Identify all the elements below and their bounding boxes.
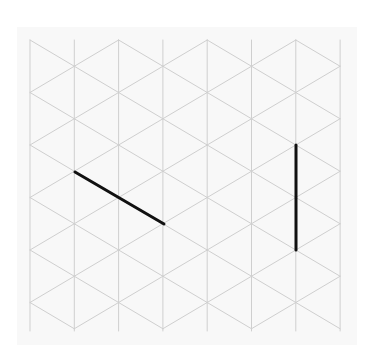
- grid-diagonal-line: [119, 119, 163, 145]
- grid-diagonal-line: [296, 171, 340, 197]
- grid-diagonal-line: [252, 276, 296, 302]
- grid-diagonal-line: [296, 198, 340, 224]
- grid-diagonal-line: [163, 119, 207, 145]
- grid-diagonal-line: [207, 198, 251, 224]
- grid-diagonal-line: [30, 93, 74, 119]
- grid-diagonal-line: [119, 171, 163, 197]
- grid-diagonal-line: [119, 224, 163, 250]
- grid-diagonal-line: [30, 198, 74, 224]
- grid-diagonal-line: [74, 145, 118, 171]
- grid-diagonal-line: [252, 303, 296, 329]
- grid-diagonal-line: [207, 40, 251, 66]
- grid-diagonal-line: [296, 40, 340, 66]
- grid-diagonal-line: [30, 145, 74, 171]
- grid-diagonal-line: [163, 224, 207, 250]
- grid-diagonal-line: [296, 276, 340, 302]
- grid-diagonal-line: [119, 303, 163, 329]
- grid-diagonal-line: [74, 66, 118, 92]
- grid-diagonal-line: [207, 171, 251, 197]
- grid-diagonal-line: [163, 40, 207, 66]
- grid-diagonal-line: [30, 276, 74, 302]
- grid-diagonal-line: [74, 303, 118, 329]
- grid-diagonal-line: [163, 303, 207, 329]
- grid-diagonal-line: [252, 40, 296, 66]
- grid-diagonal-line: [119, 40, 163, 66]
- grid-diagonal-line: [119, 66, 163, 92]
- grid-diagonal-line: [207, 276, 251, 302]
- grid-diagonal-line: [207, 66, 251, 92]
- grid-diagonal-line: [30, 66, 74, 92]
- grid-diagonal-line: [252, 93, 296, 119]
- grid-diagonal-line: [119, 250, 163, 276]
- drawn-segments: [75, 145, 296, 250]
- grid-diagonal-line: [296, 66, 340, 92]
- grid-diagonal-line: [74, 40, 118, 66]
- grid-diagonal-line: [252, 171, 296, 197]
- grid-diagonal-line: [252, 145, 296, 171]
- grid-diagonal-line: [74, 198, 118, 224]
- grid-diagonal-line: [207, 145, 251, 171]
- grid-diagonal-line: [30, 171, 74, 197]
- grid-diagonal-line: [119, 145, 163, 171]
- diagonal-segment: [75, 172, 164, 224]
- grid-diagonal-line: [207, 303, 251, 329]
- grid-diagonal-line: [119, 93, 163, 119]
- grid-diagonal-line: [296, 145, 340, 171]
- grid-diagonal-line: [296, 119, 340, 145]
- grid-diagonal-line: [30, 224, 74, 250]
- grid-diagonal-line: [207, 250, 251, 276]
- grid-diagonal-line: [252, 250, 296, 276]
- grid-diagonal-line: [30, 119, 74, 145]
- grid-diagonal-line: [74, 93, 118, 119]
- grid-diagonal-line: [207, 93, 251, 119]
- grid-diagonal-line: [163, 171, 207, 197]
- grid-diagonal-line: [163, 93, 207, 119]
- grid-diagonal-line: [296, 93, 340, 119]
- grid-diagonal-line: [163, 250, 207, 276]
- grid-diagonal-line: [252, 66, 296, 92]
- grid-diagonal-line: [30, 303, 74, 329]
- grid-diagonal-line: [163, 145, 207, 171]
- grid-diagonal-line: [30, 250, 74, 276]
- grid-diagonal-line: [163, 276, 207, 302]
- grid-diagonal-line: [163, 66, 207, 92]
- grid-diagonal-line: [74, 250, 118, 276]
- grid-diagonal-line: [252, 198, 296, 224]
- grid-diagonal-line: [296, 250, 340, 276]
- isometric-grid: [0, 0, 368, 352]
- grid-diagonal-line: [163, 198, 207, 224]
- grid-lines: [30, 40, 340, 331]
- grid-diagonal-line: [296, 303, 340, 329]
- grid-diagonal-line: [74, 119, 118, 145]
- grid-diagonal-line: [252, 224, 296, 250]
- grid-diagonal-line: [30, 40, 74, 66]
- grid-diagonal-line: [296, 224, 340, 250]
- grid-diagonal-line: [207, 119, 251, 145]
- grid-diagonal-line: [207, 224, 251, 250]
- grid-diagonal-line: [74, 224, 118, 250]
- grid-diagonal-line: [74, 276, 118, 302]
- grid-diagonal-line: [119, 276, 163, 302]
- grid-diagonal-line: [252, 119, 296, 145]
